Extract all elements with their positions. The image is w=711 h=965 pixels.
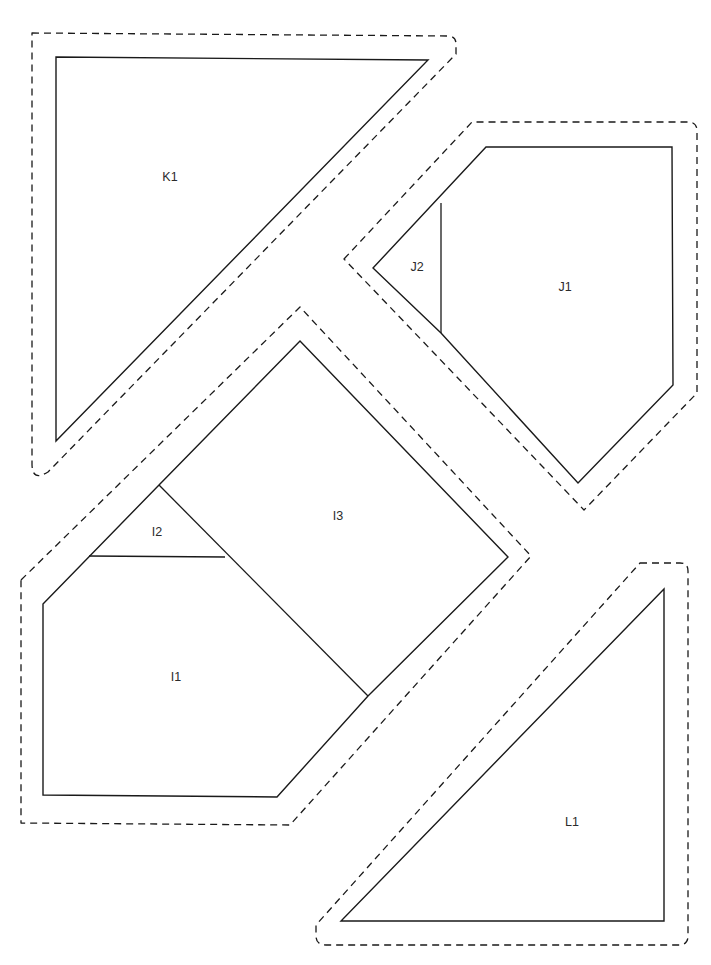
pattern-piece-j[interactable]: J1 J2 [344, 122, 697, 510]
piece-label-i3: I3 [333, 509, 343, 523]
piece-label-l1: L1 [565, 815, 579, 829]
piece-label-j2: J2 [410, 260, 423, 274]
piece-label-i2: I2 [152, 525, 162, 539]
cut-outline-j [373, 147, 673, 483]
pattern-canvas: K1 J1 J2 I1 I2 I3 L1 [0, 0, 711, 965]
pattern-piece-k[interactable]: K1 [32, 33, 456, 476]
cut-outline-l [341, 589, 664, 921]
piece-label-k1: K1 [162, 170, 177, 184]
pattern-piece-i[interactable]: I1 I2 I3 [21, 307, 531, 825]
divider-line-i2 [89, 556, 225, 557]
seam-allowance-outline-l [316, 563, 688, 945]
seam-allowance-outline-j [344, 122, 697, 510]
seam-allowance-outline-k [32, 33, 456, 476]
seam-allowance-outline-i [21, 307, 531, 825]
pattern-piece-l[interactable]: L1 [316, 563, 688, 945]
pattern-sheet: K1 J1 J2 I1 I2 I3 L1 [0, 0, 711, 965]
piece-label-i1: I1 [171, 670, 181, 684]
cut-outline-i [43, 341, 508, 797]
piece-label-j1: J1 [558, 280, 571, 294]
cut-outline-k [56, 57, 428, 441]
